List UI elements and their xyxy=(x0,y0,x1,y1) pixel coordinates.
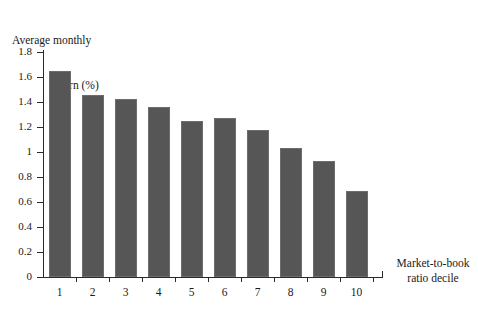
bar xyxy=(313,161,335,277)
y-axis-tick xyxy=(37,227,44,228)
x-axis-tick xyxy=(307,277,308,282)
x-axis-tick xyxy=(340,277,341,282)
y-axis-tick-label: 1.8 xyxy=(2,46,32,57)
bar xyxy=(280,148,302,277)
y-axis-tick-label: 0.6 xyxy=(2,196,32,207)
y-axis-tick-label: 0.8 xyxy=(2,171,32,182)
x-axis-title-line-2: ratio decile xyxy=(389,271,477,286)
x-axis-tick xyxy=(274,277,275,282)
x-axis-title: Market-to-book ratio decile xyxy=(389,256,477,286)
bar xyxy=(181,121,203,277)
y-axis-tick-label: 1.4 xyxy=(2,96,32,107)
bar xyxy=(115,99,137,277)
x-axis-tick-label: 6 xyxy=(213,286,237,298)
bar xyxy=(82,95,104,277)
bar xyxy=(148,107,170,277)
y-axis-tick xyxy=(37,177,44,178)
x-axis-end-tick xyxy=(382,271,383,278)
y-axis-tick-label: 1.6 xyxy=(2,71,32,82)
bar xyxy=(49,71,71,277)
y-axis-tick xyxy=(37,77,44,78)
x-axis-tick xyxy=(109,277,110,282)
bar-chart-figure: Average monthly return (%) 00.20.40.60.8… xyxy=(0,0,478,313)
x-axis-tick-label: 4 xyxy=(147,286,171,298)
y-axis-tick-label: 0.4 xyxy=(2,221,32,232)
x-axis-tick-label: 8 xyxy=(279,286,303,298)
x-axis-tick-label: 9 xyxy=(312,286,336,298)
x-axis-tick xyxy=(208,277,209,282)
x-axis-tick-label: 10 xyxy=(345,286,369,298)
y-axis-line xyxy=(43,50,44,278)
y-axis-tick xyxy=(37,152,44,153)
bar xyxy=(247,130,269,278)
x-axis-tick-label: 3 xyxy=(114,286,138,298)
x-axis-tick-label: 7 xyxy=(246,286,270,298)
y-axis-tick xyxy=(37,277,44,278)
x-axis-tick xyxy=(373,277,374,282)
x-axis-tick xyxy=(76,277,77,282)
x-axis-tick-label: 1 xyxy=(48,286,72,298)
x-axis-title-line-1: Market-to-book xyxy=(389,256,477,271)
x-axis-tick-label: 5 xyxy=(180,286,204,298)
y-axis-tick-label: 0.2 xyxy=(2,246,32,257)
y-axis-tick-label: 0 xyxy=(2,271,32,282)
x-axis-tick-label: 2 xyxy=(81,286,105,298)
x-axis-line xyxy=(43,277,383,278)
x-axis-tick xyxy=(241,277,242,282)
y-axis-tick xyxy=(37,127,44,128)
y-axis-tick xyxy=(37,202,44,203)
y-axis-tick-label: 1 xyxy=(2,146,32,157)
x-axis-tick xyxy=(142,277,143,282)
y-axis-tick-label: 1.2 xyxy=(2,121,32,132)
y-axis-tick xyxy=(37,52,44,53)
bar xyxy=(214,118,236,277)
y-axis-tick xyxy=(37,102,44,103)
bar xyxy=(346,191,368,277)
x-axis-tick xyxy=(175,277,176,282)
y-axis-tick xyxy=(37,252,44,253)
